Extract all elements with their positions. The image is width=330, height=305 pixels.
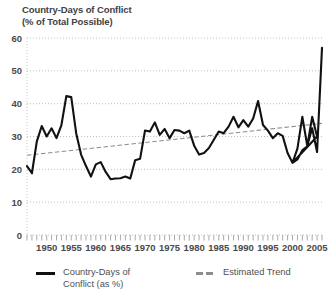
x-tick-label: 2000 xyxy=(282,242,303,253)
legend-label-conflict-line-2: Conflict (as %) xyxy=(63,279,130,291)
legend-solid-line-icon xyxy=(36,272,55,275)
legend-label-trend: Estimated Trend xyxy=(223,267,291,279)
y-tick-label: 0 xyxy=(17,230,22,241)
chart-plot-area: 0102030405060 19501955196019651970197519… xyxy=(0,0,330,264)
legend-label-conflict-line-1: Country-Days of xyxy=(63,267,130,279)
legend-label-conflict: Country-Days of Conflict (as %) xyxy=(63,267,130,290)
x-tick-label: 1955 xyxy=(61,242,83,253)
x-tick-label: 1990 xyxy=(233,242,254,253)
gridlines xyxy=(27,38,322,235)
legend-item-trend: Estimated Trend xyxy=(196,267,291,279)
x-tick-label: 1975 xyxy=(159,242,181,253)
y-tick-label: 20 xyxy=(11,164,22,175)
x-tick-label: 1950 xyxy=(36,242,57,253)
chart-figure: Country-Days of Conflict (% of Total Pos… xyxy=(0,0,330,305)
y-tick-label: 60 xyxy=(11,33,22,44)
legend-dashed-line-icon xyxy=(196,272,215,275)
x-axis-minor-ticks xyxy=(27,235,322,241)
x-tick-label: 1970 xyxy=(134,242,155,253)
x-tick-label: 1980 xyxy=(184,242,205,253)
y-tick-label: 10 xyxy=(11,197,22,208)
y-tick-label: 30 xyxy=(11,131,22,142)
chart-legend: Country-Days of Conflict (as %) Estimate… xyxy=(0,264,330,305)
x-tick-label: 1965 xyxy=(110,242,132,253)
x-tick-label: 1960 xyxy=(85,242,106,253)
x-tick-label: 1995 xyxy=(257,242,279,253)
legend-item-conflict: Country-Days of Conflict (as %) xyxy=(36,267,130,290)
x-tick-label: 2005 xyxy=(307,242,329,253)
series-line-conflict xyxy=(27,48,322,179)
legend-label-trend-text: Estimated Trend xyxy=(223,267,291,279)
y-tick-label: 50 xyxy=(11,65,22,76)
x-tick-label: 1985 xyxy=(208,242,230,253)
y-tick-label: 40 xyxy=(11,98,22,109)
trend-line xyxy=(27,123,322,155)
y-axis-tick-labels: 0102030405060 xyxy=(11,33,22,241)
x-axis-tick-labels: 1950195519601965197019751980198519901995… xyxy=(36,242,328,253)
